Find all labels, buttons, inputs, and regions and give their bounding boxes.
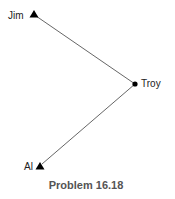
node-label-al: Al xyxy=(24,161,33,173)
edge-jim-troy xyxy=(36,16,135,84)
jim-triangle-icon xyxy=(30,10,39,18)
troy-dot-icon xyxy=(132,81,137,86)
edge-troy-al xyxy=(42,84,135,164)
node-label-troy: Troy xyxy=(141,78,161,90)
figure-caption: Problem 16.18 xyxy=(0,179,172,192)
node-label-jim: Jim xyxy=(8,10,24,22)
